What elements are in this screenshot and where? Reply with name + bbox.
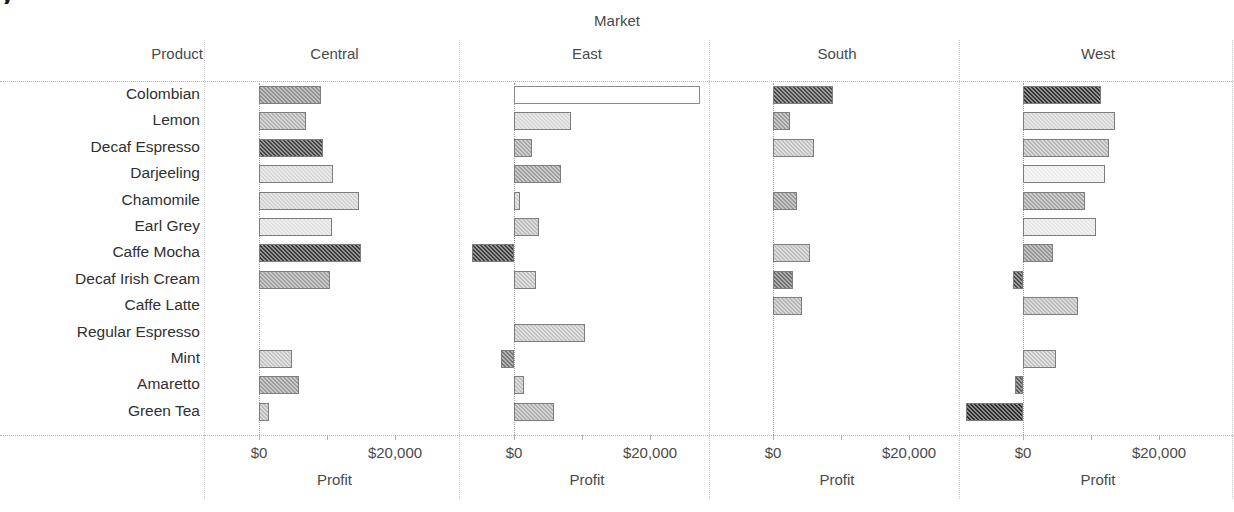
axis-tick-label: $20,000	[600, 444, 700, 461]
axis-tick	[841, 435, 842, 440]
axis-tick-label: $0	[723, 444, 823, 461]
market-group-label: Market	[0, 12, 1234, 29]
panel-west	[962, 83, 1234, 435]
bar[interactable]	[514, 139, 532, 157]
panel-east	[462, 83, 712, 435]
bar[interactable]	[514, 324, 585, 342]
bar[interactable]	[259, 218, 332, 236]
plot-body: ColombianLemonDecaf EspressoDarjeelingCh…	[0, 83, 1234, 435]
axis-tick	[514, 435, 515, 440]
axis-tick	[1023, 435, 1024, 440]
bar[interactable]	[501, 350, 514, 368]
bar[interactable]	[514, 218, 539, 236]
axis-tick	[395, 435, 396, 440]
axis-area: $0$20,000Profit$0$20,000Profit$0$20,000P…	[0, 435, 1234, 512]
axis-tick	[259, 435, 260, 440]
bar[interactable]	[472, 244, 514, 262]
axis-tick	[650, 435, 651, 440]
bar[interactable]	[1013, 271, 1023, 289]
bar[interactable]	[514, 271, 536, 289]
axis-title-south: Profit	[712, 471, 962, 488]
bar[interactable]	[1023, 350, 1056, 368]
row-label: Darjeeling	[0, 164, 200, 182]
chart-root: y Market ProductCentralEastSouthWest Col…	[0, 0, 1234, 512]
bar[interactable]	[1023, 139, 1109, 157]
row-label: Caffe Latte	[0, 296, 200, 314]
column-header-central: Central	[207, 40, 462, 68]
bar[interactable]	[259, 244, 361, 262]
axis-tick-label: $20,000	[345, 444, 445, 461]
panel-separator-west	[959, 40, 960, 435]
column-header-product: Product	[0, 40, 211, 68]
bar[interactable]	[259, 86, 321, 104]
axis-title-west: Profit	[962, 471, 1234, 488]
panel-header-row: ProductCentralEastSouthWest	[0, 40, 1234, 72]
bar[interactable]	[259, 165, 333, 183]
bar[interactable]	[1015, 376, 1023, 394]
row-label: Lemon	[0, 111, 200, 129]
row-label: Colombian	[0, 85, 200, 103]
axis-tick	[582, 435, 583, 440]
bar[interactable]	[259, 403, 269, 421]
page-title: y	[0, 0, 400, 4]
axis-separator-west	[959, 435, 960, 499]
panel-separator-right	[1232, 40, 1233, 435]
bar[interactable]	[1023, 112, 1115, 130]
row-label: Green Tea	[0, 402, 200, 420]
bar[interactable]	[259, 271, 330, 289]
axis-top-rule	[0, 435, 1234, 436]
bar[interactable]	[773, 244, 810, 262]
axis-tick-label: $0	[209, 444, 309, 461]
panel-separator-south	[709, 40, 710, 435]
panel-central	[207, 83, 462, 435]
bar[interactable]	[259, 112, 306, 130]
header-underline	[0, 81, 1234, 82]
bar[interactable]	[773, 271, 793, 289]
panel-separator-east	[459, 40, 460, 435]
bar[interactable]	[966, 403, 1023, 421]
axis-tick-label: $0	[464, 444, 564, 461]
axis-tick	[327, 435, 328, 440]
axis-tick	[1091, 435, 1092, 440]
axis-title-east: Profit	[462, 471, 712, 488]
axis-separator-central	[204, 435, 205, 499]
axis-title-central: Profit	[207, 471, 462, 488]
panel-south	[712, 83, 962, 435]
row-label: Earl Grey	[0, 217, 200, 235]
axis-tick	[909, 435, 910, 440]
bar[interactable]	[1023, 165, 1105, 183]
bar[interactable]	[773, 297, 802, 315]
bar[interactable]	[1023, 244, 1053, 262]
column-header-east: East	[462, 40, 712, 68]
row-label: Decaf Irish Cream	[0, 270, 200, 288]
row-label: Chamomile	[0, 191, 200, 209]
bar[interactable]	[514, 403, 554, 421]
bar[interactable]	[1023, 218, 1096, 236]
axis-separator-south	[709, 435, 710, 499]
bar[interactable]	[1023, 86, 1101, 104]
axis-tick	[1159, 435, 1160, 440]
bar[interactable]	[773, 139, 814, 157]
axis-tick	[773, 435, 774, 440]
bar[interactable]	[514, 376, 524, 394]
axis-separator-east	[459, 435, 460, 499]
bar[interactable]	[514, 165, 561, 183]
bar[interactable]	[1023, 192, 1085, 210]
bar[interactable]	[1023, 297, 1078, 315]
bar[interactable]	[514, 112, 571, 130]
bar[interactable]	[773, 112, 790, 130]
bar[interactable]	[259, 139, 323, 157]
bar[interactable]	[514, 86, 700, 104]
row-label: Caffe Mocha	[0, 243, 200, 261]
axis-separator-right	[1232, 435, 1233, 499]
column-header-south: South	[712, 40, 962, 68]
bar[interactable]	[259, 376, 299, 394]
bar[interactable]	[514, 192, 520, 210]
axis-tick-label: $20,000	[1109, 444, 1209, 461]
bar[interactable]	[773, 86, 833, 104]
row-label: Amaretto	[0, 375, 200, 393]
row-label: Decaf Espresso	[0, 138, 200, 156]
bar[interactable]	[259, 192, 359, 210]
bar[interactable]	[773, 192, 797, 210]
bar[interactable]	[259, 350, 292, 368]
